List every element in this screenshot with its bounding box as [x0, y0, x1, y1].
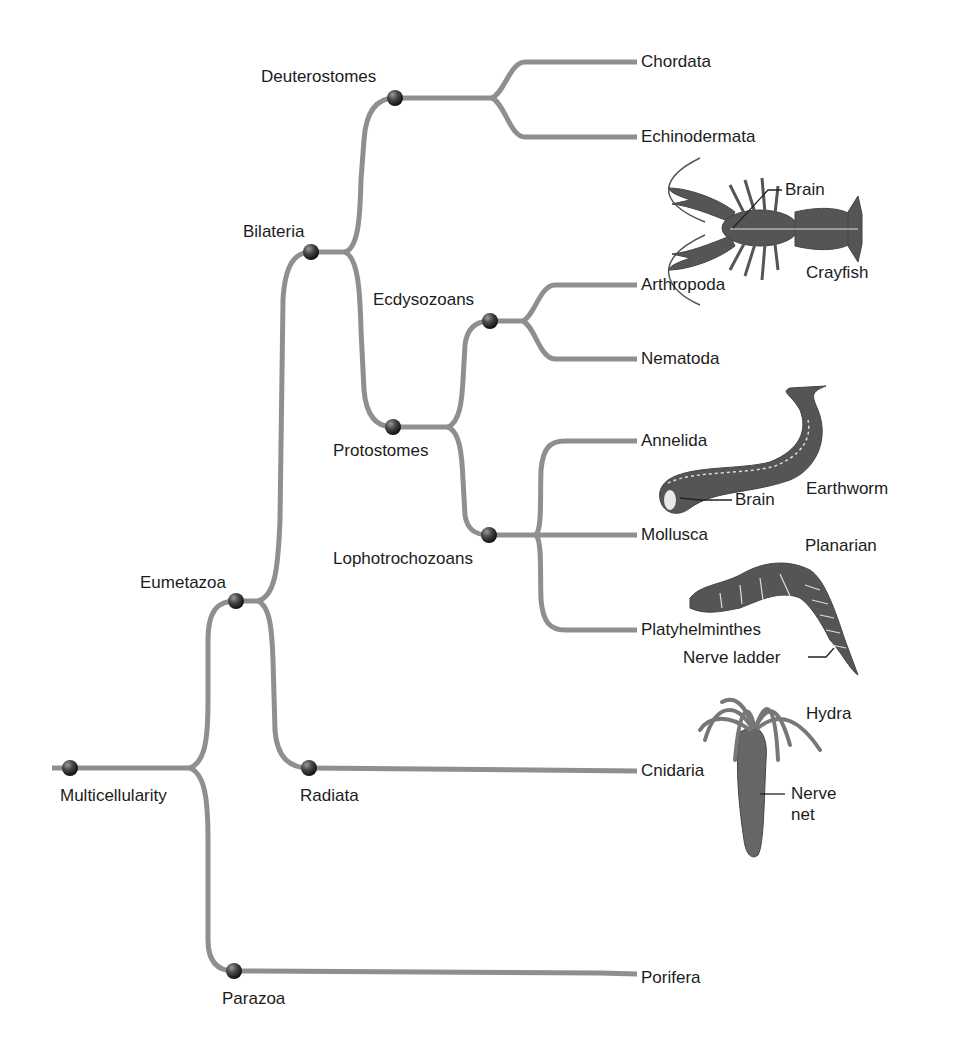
branch-eumetazoa: [190, 601, 236, 768]
branch-chordata: [492, 62, 637, 98]
node-multicellularity: [62, 760, 78, 776]
label-hydra: Hydra: [806, 704, 851, 724]
label-crayfish-brain: Brain: [785, 180, 825, 200]
tip-chordata: Chordata: [641, 52, 711, 72]
tip-mollusca: Mollusca: [641, 525, 708, 545]
label-multicellularity: Multicellularity: [60, 786, 167, 806]
planarian-nerve-ladder-leader: [808, 648, 834, 657]
node-deuterostomes: [387, 90, 403, 106]
node-radiata: [301, 760, 317, 776]
tip-arthropoda: Arthropoda: [641, 275, 725, 295]
tip-annelida: Annelida: [641, 431, 707, 451]
label-eumetazoa: Eumetazoa: [140, 573, 226, 593]
branches: [52, 62, 637, 974]
branch-ecdysozoans: [448, 321, 490, 427]
node-bilateria: [303, 244, 319, 260]
branch-porifera: [234, 971, 637, 974]
branch-nematoda: [523, 321, 637, 359]
branch-deuterostomes: [345, 98, 395, 252]
branch-cnidaria: [309, 768, 637, 771]
branch-lophotrochozoans: [448, 427, 489, 535]
tip-porifera: Porifera: [641, 968, 701, 988]
branch-annelida: [536, 441, 637, 535]
tip-cnidaria: Cnidaria: [641, 761, 704, 781]
node-protostomes: [385, 419, 401, 435]
label-hydra-net: net: [791, 805, 815, 825]
branch-arthropoda: [523, 285, 637, 321]
label-parazoa: Parazoa: [222, 989, 285, 1009]
branch-bilateria: [258, 252, 311, 601]
node-eumetazoa: [228, 593, 244, 609]
tip-nematoda: Nematoda: [641, 349, 719, 369]
label-planarian: Planarian: [805, 536, 877, 556]
label-earthworm-brain: Brain: [735, 490, 775, 510]
branch-echinodermata: [492, 98, 637, 137]
label-ecdysozoans: Ecdysozoans: [373, 290, 474, 310]
label-nerve-ladder: Nerve ladder: [683, 648, 780, 668]
branch-platyhelminthes: [536, 535, 637, 630]
tip-echinodermata: Echinodermata: [641, 127, 755, 147]
hydra-illustration: [700, 700, 820, 857]
label-hydra-nerve: Nerve: [791, 784, 836, 804]
label-crayfish: Crayfish: [806, 263, 868, 283]
label-protostomes: Protostomes: [333, 441, 428, 461]
node-ecdysozoans: [482, 313, 498, 329]
label-lophotrochozoans: Lophotrochozoans: [333, 549, 473, 569]
label-deuterostomes: Deuterostomes: [261, 67, 376, 87]
branch-radiata: [258, 601, 309, 768]
label-earthworm: Earthworm: [806, 479, 888, 499]
tip-platyhelminthes: Platyhelminthes: [641, 620, 761, 640]
node-lophotrochozoans: [481, 527, 497, 543]
label-radiata: Radiata: [300, 786, 359, 806]
branch-protostomes: [345, 252, 393, 427]
phylogenetic-tree: [0, 0, 954, 1062]
node-parazoa: [226, 963, 242, 979]
branch-parazoa: [190, 768, 234, 971]
label-bilateria: Bilateria: [243, 222, 304, 242]
